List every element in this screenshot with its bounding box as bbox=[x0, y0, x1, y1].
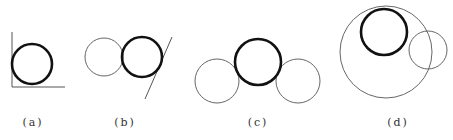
panel-c-right-thin-circle bbox=[276, 59, 320, 103]
panel-b-thin-circle bbox=[85, 38, 123, 76]
diagram-canvas bbox=[0, 0, 453, 140]
panel-b-thick-circle bbox=[122, 37, 162, 77]
panel-a-thick-circle bbox=[12, 44, 52, 84]
panel-d-outer-circle bbox=[340, 6, 432, 98]
panel-c bbox=[195, 39, 320, 103]
panel-a bbox=[12, 32, 65, 87]
panel-d bbox=[340, 6, 447, 98]
panel-c-label: (c) bbox=[248, 116, 269, 129]
panel-d-small-thin-circle bbox=[409, 31, 447, 69]
panel-a-label: (a) bbox=[22, 116, 43, 129]
panel-d-label: (d) bbox=[387, 116, 409, 129]
panel-c-thick-circle bbox=[235, 39, 281, 85]
panel-b-label: (b) bbox=[114, 116, 136, 129]
panel-b bbox=[85, 37, 172, 99]
panel-c-left-thin-circle bbox=[195, 59, 239, 103]
panel-d-thick-circle bbox=[361, 9, 407, 55]
